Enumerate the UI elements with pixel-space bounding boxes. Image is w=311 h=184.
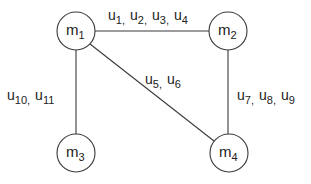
edge-label-m2-m4: u7,u8,u9 — [237, 87, 295, 106]
graph-diagram: m1 m2 m3 m4 u1,u2,u3,u4 u5,u6 u7,u8,u9 u… — [0, 0, 311, 184]
edge-label-m1-m3: u10,u11 — [7, 87, 54, 106]
node-m4: m4 — [210, 134, 248, 172]
edge-label-m1-m4: u5,u6 — [145, 71, 181, 90]
edge-label-m1-m2: u1,u2,u3,u4 — [108, 7, 188, 26]
node-m3: m3 — [57, 134, 95, 172]
node-m1: m1 — [57, 12, 95, 50]
edge-m1-m4 — [90, 44, 214, 141]
node-m2: m2 — [209, 12, 247, 50]
